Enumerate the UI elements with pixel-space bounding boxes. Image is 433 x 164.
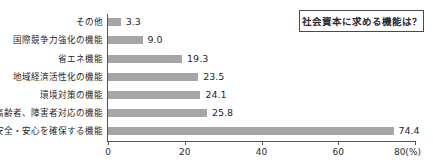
category-label: 安全・安心を確保する機能 (0, 127, 103, 136)
category-label: 国際競争力強化の機能 (13, 36, 103, 45)
bar-row: 安全・安心を確保する機能74.4 (0, 123, 433, 141)
x-tick-label-60: 60 (333, 147, 344, 157)
category-label: その他 (76, 18, 103, 27)
bar-row: 高齢者、障害者対応の機能25.8 (0, 105, 433, 123)
x-tick-label-80: 80(%) (394, 147, 421, 157)
bar (108, 73, 198, 81)
bar-row: 国際競争力強化の機能9.0 (0, 32, 433, 50)
x-tick-label-0: 0 (105, 147, 111, 157)
x-tick-40 (262, 141, 263, 145)
x-tick-0 (108, 141, 109, 145)
bar-value-label: 24.1 (205, 90, 226, 100)
bar-row: その他3.3 (0, 14, 433, 32)
bar-row: 地域経済活性化の機能23.5 (0, 68, 433, 86)
bar (108, 36, 143, 44)
x-tick-60 (338, 141, 339, 145)
bar-value-label: 19.3 (187, 54, 208, 64)
bar-value-label: 25.8 (212, 109, 233, 119)
plot-area: 020406080(%) その他3.3国際競争力強化の機能9.0省エネ機能19.… (0, 0, 433, 164)
bar (108, 18, 121, 26)
chart-screenshot: 社会資本に求める機能は？ 020406080(%) その他3.3国際競争力強化の… (0, 0, 433, 164)
x-tick-80 (415, 141, 416, 145)
x-tick-20 (185, 141, 186, 145)
bar-value-label: 3.3 (126, 18, 141, 28)
category-label: 地域経済活性化の機能 (13, 73, 103, 82)
bar-value-label: 23.5 (203, 72, 224, 82)
bar (108, 109, 207, 117)
bar-value-label: 9.0 (148, 36, 163, 46)
category-label: 省エネ機能 (58, 54, 103, 63)
bar (108, 127, 394, 135)
bar-value-label: 74.4 (399, 127, 420, 137)
category-label: 高齢者、障害者対応の機能 (0, 109, 103, 118)
category-label: 環境対策の機能 (40, 91, 103, 100)
bar (108, 55, 182, 63)
bar (108, 91, 200, 99)
x-tick-label-20: 20 (179, 147, 190, 157)
bar-row: 省エネ機能19.3 (0, 50, 433, 68)
x-tick-label-40: 40 (256, 147, 267, 157)
bar-row: 環境対策の機能24.1 (0, 86, 433, 104)
